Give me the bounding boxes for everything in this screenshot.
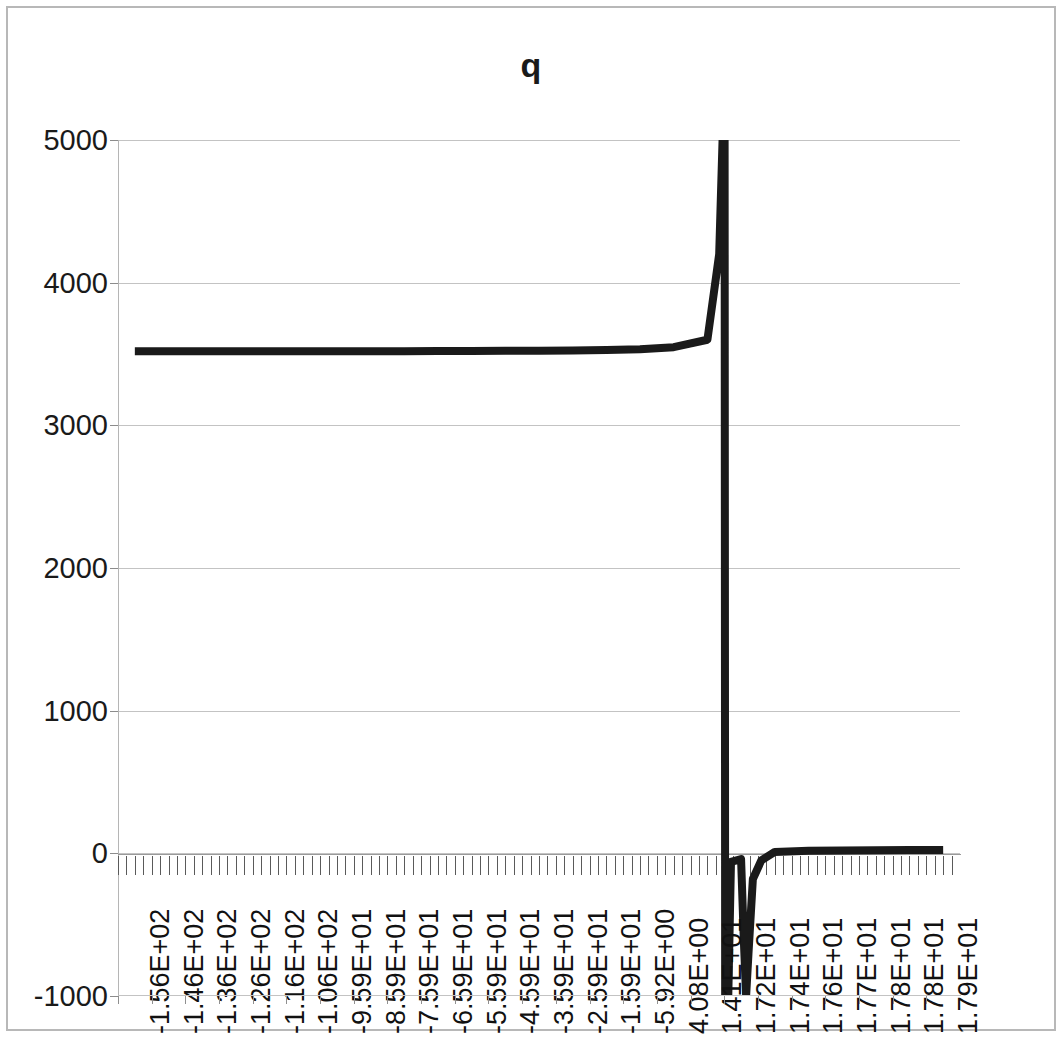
x-axis-tick-label: -1.46E+02 (179, 874, 209, 1034)
y-axis-tick-label: 5000 (8, 124, 108, 157)
x-axis-tick-label: -5.59E+01 (482, 874, 512, 1034)
x-axis-tick-mark (623, 995, 624, 1004)
x-axis-tick-label: -1.06E+02 (313, 874, 343, 1034)
x-axis-tick-label: 1.74E+01 (785, 874, 815, 1034)
x-axis-tick-mark (253, 995, 254, 1004)
x-axis-tick-mark (219, 995, 220, 1004)
x-axis-tick-label: -4.59E+01 (515, 874, 545, 1034)
x-axis-tick-label: -8.59E+01 (381, 874, 411, 1034)
x-axis-tick-mark (488, 995, 489, 1004)
x-axis-tick-mark (825, 995, 826, 1004)
x-axis-tick-label: -1.16E+02 (280, 874, 310, 1034)
x-axis-tick-mark (724, 995, 725, 1004)
x-axis-tick-label: 1.77E+01 (852, 874, 882, 1034)
x-axis-tick-label: -1.36E+02 (212, 874, 242, 1034)
y-axis-tick-label: 4000 (8, 266, 108, 299)
x-axis-tick-mark (556, 995, 557, 1004)
x-axis-tick-mark (185, 995, 186, 1004)
x-axis-tick-mark (691, 995, 692, 1004)
x-axis-tick-mark (152, 995, 153, 1004)
x-axis-tick-mark (286, 995, 287, 1004)
x-axis-tick-mark (657, 995, 658, 1004)
x-axis-tick-label: 1.79E+01 (953, 874, 983, 1034)
x-axis-tick-label: 1.41E+01 (717, 874, 747, 1034)
x-axis-tick-label: -1.26E+02 (246, 874, 276, 1034)
x-axis-tick-label: -2.59E+01 (583, 874, 613, 1034)
x-axis-tick-mark (118, 995, 119, 1004)
data-series-q (118, 140, 960, 996)
series-line (135, 140, 943, 996)
x-axis-tick-label: 1.78E+01 (886, 874, 916, 1034)
y-axis-tick-label: 0 (8, 837, 108, 870)
x-axis-tick-mark (387, 995, 388, 1004)
x-axis-tick-mark (758, 995, 759, 1004)
x-axis-tick-mark (320, 995, 321, 1004)
x-axis-tick-mark (926, 995, 927, 1004)
bottom-axis-rule (118, 995, 961, 996)
chart-page: q 500040003000200010000-1000 -1.56E+02-1… (0, 0, 1062, 1037)
x-axis-tick-mark (590, 995, 591, 1004)
x-axis-tick-mark (859, 995, 860, 1004)
x-axis-tick-label: -7.59E+01 (414, 874, 444, 1034)
x-axis-tick-label: -5.92E+00 (650, 874, 680, 1034)
x-axis-tick-label: -9.59E+01 (347, 874, 377, 1034)
x-axis-tick-mark (792, 995, 793, 1004)
x-axis-tick-label: 1.72E+01 (751, 874, 781, 1034)
x-axis-tick-label: 1.76E+01 (818, 874, 848, 1034)
x-axis-tick-mark (522, 995, 523, 1004)
x-axis-tick-label: -1.56E+02 (145, 874, 175, 1034)
x-axis-tick-mark (421, 995, 422, 1004)
x-axis-tick-label: 1.78E+01 (919, 874, 949, 1034)
y-axis-tick-label: 1000 (8, 694, 108, 727)
y-axis-tick-label: -1000 (8, 980, 108, 1013)
x-axis-tick-label: -3.59E+01 (549, 874, 579, 1034)
x-axis-tick-label: -6.59E+01 (448, 874, 478, 1034)
x-axis-tick-mark (455, 995, 456, 1004)
y-axis-tick-labels: 500040003000200010000-1000 (0, 0, 108, 1037)
x-axis-tick-labels: -1.56E+02-1.46E+02-1.36E+02-1.26E+02-1.1… (118, 876, 960, 1037)
chart-title: q (0, 46, 1062, 85)
x-axis-tick-label: 4.08E+00 (684, 874, 714, 1034)
x-axis-tick-label: -1.59E+01 (616, 874, 646, 1034)
y-axis-tick-label: 3000 (8, 409, 108, 442)
x-axis-tick-mark (893, 995, 894, 1004)
y-axis-tick-label: 2000 (8, 552, 108, 585)
x-axis-tick-mark (354, 995, 355, 1004)
